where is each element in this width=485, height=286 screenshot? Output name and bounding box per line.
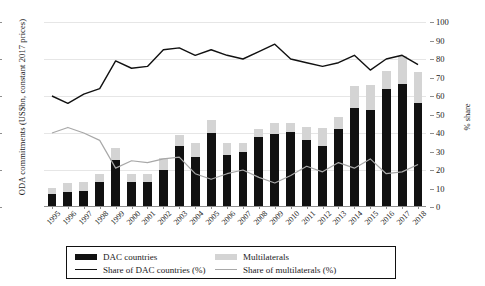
x-axis-tick-label: 1996 bbox=[61, 209, 79, 227]
x-axis-tick-mark bbox=[116, 206, 117, 209]
tick-mark bbox=[430, 96, 434, 97]
y-axis-right-tick-label: 0 bbox=[436, 202, 470, 212]
x-axis-tick-label: 2000 bbox=[124, 209, 142, 227]
legend-row-lines: Share of DAC countries (%) Share of mult… bbox=[75, 263, 387, 276]
x-axis-tick-mark bbox=[132, 206, 133, 209]
x-axis-tick-mark bbox=[211, 206, 212, 209]
x-axis-tick-label: 2011 bbox=[300, 209, 317, 226]
x-axis-tick-mark bbox=[323, 206, 324, 209]
x-axis-tick-mark bbox=[338, 206, 339, 209]
x-axis-tick-mark bbox=[307, 206, 308, 209]
tick-mark bbox=[430, 59, 434, 60]
tick-mark bbox=[430, 133, 434, 134]
tick-mark bbox=[430, 115, 434, 116]
y-axis-right-tick-label: 30 bbox=[436, 147, 470, 157]
legend-item-dac-share: Share of DAC countries (%) bbox=[75, 265, 215, 275]
x-axis-tick-mark bbox=[370, 206, 371, 209]
x-axis-tick-mark bbox=[147, 206, 148, 209]
y-axis-right-tick-label: 90 bbox=[436, 36, 470, 46]
legend-item-multilaterals: Multilaterals bbox=[215, 252, 289, 262]
x-axis-tick-label: 2016 bbox=[379, 209, 397, 227]
x-axis-tick-mark bbox=[386, 206, 387, 209]
tick-mark bbox=[430, 189, 434, 190]
x-axis-tick-mark bbox=[402, 206, 403, 209]
x-axis-tick-label: 2010 bbox=[283, 209, 301, 227]
x-axis-tick-label: 1997 bbox=[76, 209, 94, 227]
x-axis-tick-label: 2005 bbox=[204, 209, 222, 227]
x-axis-tick-mark bbox=[195, 206, 196, 209]
x-axis-tick-label: 2015 bbox=[363, 209, 381, 227]
x-axis-tick-mark bbox=[291, 206, 292, 209]
tick-mark bbox=[0, 133, 2, 134]
tick-mark bbox=[0, 96, 2, 97]
x-axis-tick-label: 2009 bbox=[267, 209, 285, 227]
x-axis-tick-mark bbox=[227, 206, 228, 209]
y-axis-right-tick-label: 40 bbox=[436, 128, 470, 138]
lines-layer bbox=[44, 22, 426, 207]
multilateral-share-line bbox=[52, 127, 418, 183]
chart-container: ODA commitments (US$bn, constant 2017 pr… bbox=[0, 0, 485, 286]
x-axis-tick-label: 2002 bbox=[156, 209, 174, 227]
x-axis-baseline bbox=[44, 206, 426, 207]
multilateral-line-swatch-icon bbox=[215, 269, 237, 270]
tick-mark bbox=[430, 207, 434, 208]
legend-label-dac-share: Share of DAC countries (%) bbox=[103, 265, 205, 275]
y-axis-right-tick-label: 70 bbox=[436, 73, 470, 83]
x-axis-tick-label: 2012 bbox=[315, 209, 333, 227]
y-axis-right-tick-label: 10 bbox=[436, 184, 470, 194]
y-axis-left-title: ODA commitments (US$bn, constant 2017 pr… bbox=[17, 7, 27, 207]
legend-label-multilateral-share: Share of multilaterals (%) bbox=[243, 265, 336, 275]
tick-mark bbox=[0, 59, 2, 60]
x-axis-tick-label: 2018 bbox=[411, 209, 429, 227]
tick-mark bbox=[0, 170, 2, 171]
tick-mark bbox=[430, 152, 434, 153]
y-axis-right-tick-label: 20 bbox=[436, 165, 470, 175]
x-axis-tick-label: 2007 bbox=[236, 209, 254, 227]
x-axis-tick-label: 2004 bbox=[188, 209, 206, 227]
x-axis-labels: 1995199619971998199920002001200220032004… bbox=[44, 209, 426, 247]
x-axis-tick-label: 2013 bbox=[331, 209, 349, 227]
tick-mark bbox=[0, 22, 2, 23]
x-axis-tick-mark bbox=[68, 206, 69, 209]
x-axis-tick-mark bbox=[179, 206, 180, 209]
y-axis-right-tick-label: 60 bbox=[436, 91, 470, 101]
x-axis-tick-label: 2017 bbox=[395, 209, 413, 227]
x-axis-tick-mark bbox=[84, 206, 85, 209]
x-axis-tick-mark bbox=[100, 206, 101, 209]
x-axis-tick-label: 2014 bbox=[347, 209, 365, 227]
x-axis-tick-mark bbox=[259, 206, 260, 209]
plot-area: 0510152025 0102030405060708090100 bbox=[44, 22, 426, 207]
chart-legend: DAC countries Multilaterals Share of DAC… bbox=[66, 246, 396, 279]
x-axis-tick-mark bbox=[243, 206, 244, 209]
x-axis-tick-label: 1995 bbox=[45, 209, 63, 227]
legend-label-dac-countries: DAC countries bbox=[103, 252, 157, 262]
x-axis-tick-label: 1998 bbox=[92, 209, 110, 227]
y-axis-right-tick-label: 80 bbox=[436, 54, 470, 64]
dac-line-swatch-icon bbox=[75, 269, 97, 270]
x-axis-tick-label: 2006 bbox=[220, 209, 238, 227]
x-axis-tick-mark bbox=[52, 206, 53, 209]
y-axis-right-tick-label: 100 bbox=[436, 17, 470, 27]
x-axis-tick-mark bbox=[163, 206, 164, 209]
x-axis-tick-mark bbox=[275, 206, 276, 209]
legend-row-bars: DAC countries Multilaterals bbox=[75, 250, 387, 263]
tick-mark bbox=[430, 78, 434, 79]
legend-item-multilateral-share: Share of multilaterals (%) bbox=[215, 265, 336, 275]
dac-share-line bbox=[52, 44, 418, 103]
dac-swatch-icon bbox=[75, 254, 97, 260]
legend-label-multilaterals: Multilaterals bbox=[243, 252, 289, 262]
tick-mark bbox=[430, 170, 434, 171]
y-axis-right-tick-label: 50 bbox=[436, 110, 470, 120]
x-axis-tick-label: 2001 bbox=[140, 209, 158, 227]
x-axis-tick-mark bbox=[354, 206, 355, 209]
legend-item-dac-countries: DAC countries bbox=[75, 252, 215, 262]
x-axis-tick-label: 2008 bbox=[252, 209, 270, 227]
multilateral-swatch-icon bbox=[215, 254, 237, 260]
x-axis-tick-mark bbox=[418, 206, 419, 209]
x-axis-tick-label: 1999 bbox=[108, 209, 126, 227]
x-axis-tick-label: 2003 bbox=[172, 209, 190, 227]
tick-mark bbox=[430, 22, 434, 23]
tick-mark bbox=[430, 41, 434, 42]
tick-mark bbox=[0, 207, 2, 208]
